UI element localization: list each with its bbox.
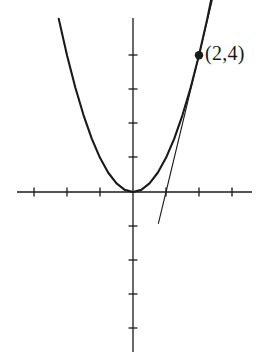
parabola-curve — [59, 0, 214, 192]
point-label: (2,4) — [205, 42, 245, 64]
tangency-point-marker — [195, 51, 203, 59]
graph-figure: (2,4) — [0, 0, 263, 356]
axes-group — [17, 18, 252, 352]
